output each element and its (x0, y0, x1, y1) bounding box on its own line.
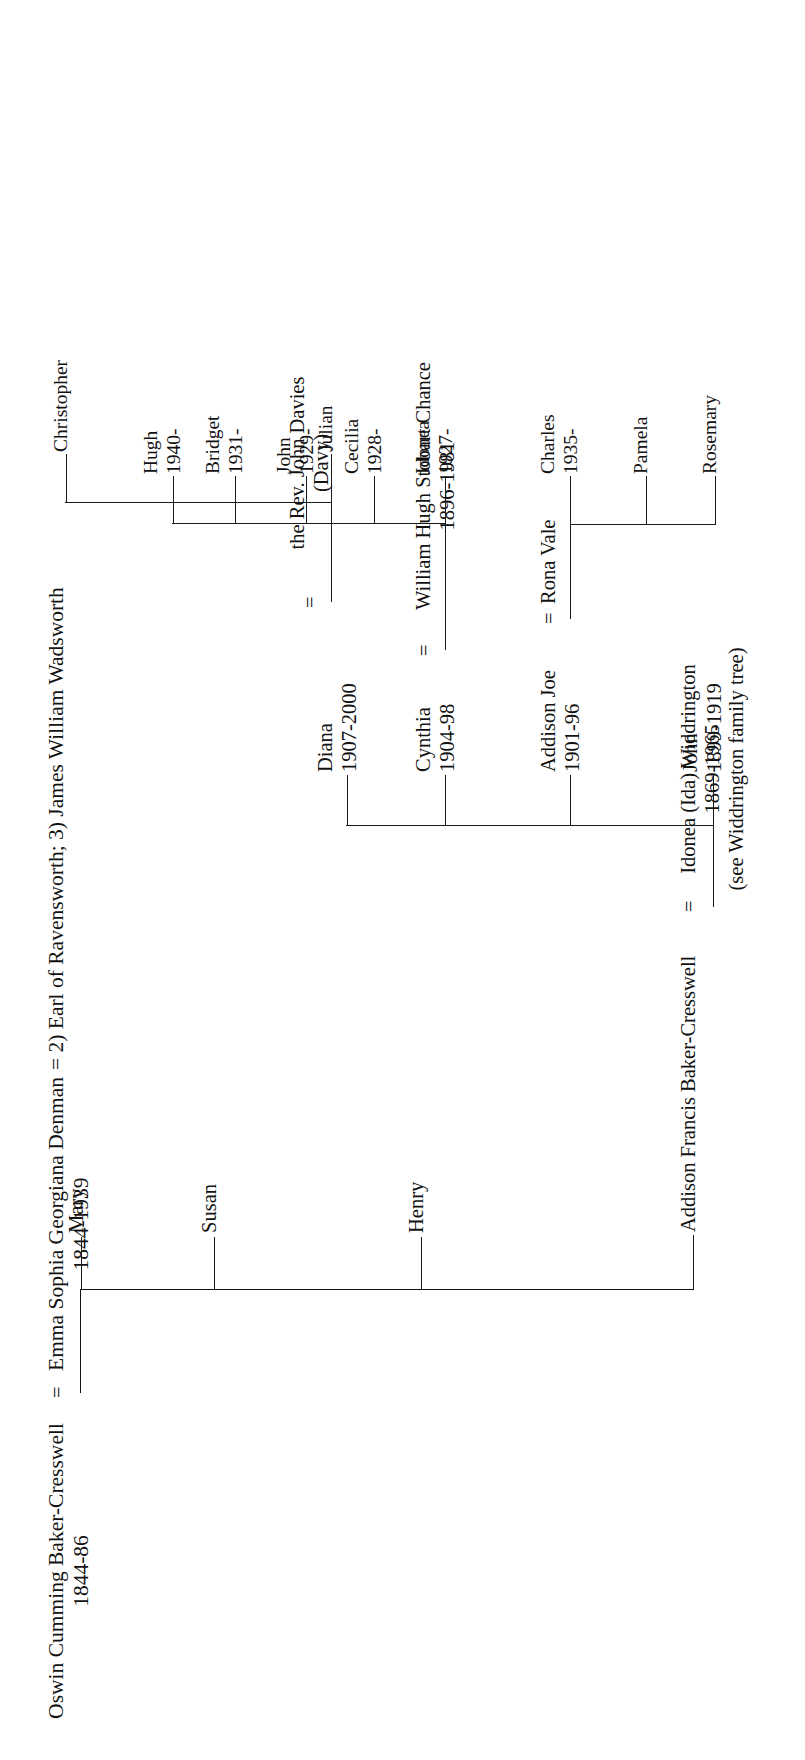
sibling-stub-rosemary (715, 476, 716, 524)
person-name: Hugh (139, 354, 162, 474)
person-henry: Henry (404, 1113, 428, 1233)
person-christopher: Christopher (49, 292, 72, 452)
person-dates: 1901-96 (560, 624, 584, 772)
person-diana: Diana 1907-2000 (313, 612, 361, 772)
person-name: Mary (64, 1113, 88, 1233)
family-tree-page: Oswin Cumming Baker-Cresswell 1844-86 = … (0, 0, 805, 1760)
sibling-stub-john-1929 (306, 476, 307, 524)
descent-line-addison-joe (570, 524, 571, 619)
remarriage-note-emma-denman: = 2) Earl of Ravensworth; 3) James Willi… (44, 550, 69, 1070)
marriage-equals-cynthia: = (414, 644, 435, 656)
sibling-stub-henry (421, 1237, 422, 1289)
sibling-spine-chance-children (172, 523, 446, 524)
sibling-spine-addison-joe-children (570, 524, 716, 525)
person-rona-vale: Rona Vale (536, 474, 560, 604)
person-name: John (678, 622, 702, 772)
person-dates: 1844-86 (69, 1406, 94, 1736)
chart-rotation-wrapper: Oswin Cumming Baker-Cresswell 1844-86 = … (0, 0, 805, 1760)
marriage-equals-g2: = (679, 900, 700, 912)
person-oswin-cumming-baker-cresswell: Oswin Cumming Baker-Cresswell 1844-86 (44, 1406, 95, 1736)
person-name: Addison Francis Baker-Cresswell (676, 914, 700, 1232)
person-dates: 1899-1919 (702, 622, 726, 772)
person-idonea-1927: Idonea 1927- (411, 354, 457, 474)
person-name: Addison Joe (536, 624, 560, 772)
person-name: Cynthia (411, 654, 435, 772)
sibling-stub-addison-francis (693, 1235, 694, 1289)
sibling-stub-pamela (646, 476, 647, 524)
sibling-stub-bridget (235, 476, 236, 524)
person-dates: 1907-2000 (337, 612, 361, 772)
person-addison-francis-baker-cresswell: Addison Francis Baker-Cresswell (676, 914, 700, 1232)
person-name: Henry (404, 1113, 428, 1233)
descent-line-g1 (80, 1289, 81, 1393)
person-pamela: Pamela (629, 354, 652, 474)
person-dates: 1928- (363, 354, 386, 474)
person-name: Susan (197, 1113, 221, 1233)
sibling-stub-idonea-1927 (445, 476, 446, 524)
person-name: Charles (536, 354, 559, 474)
person-name: Julian (314, 332, 337, 452)
person-john-1929: John 1929- (272, 354, 318, 474)
person-mary: Mary (64, 1113, 88, 1233)
person-name: Diana (313, 612, 337, 772)
sibling-stub-susan (214, 1237, 215, 1289)
person-hugh-1940: Hugh 1940- (139, 354, 185, 474)
descent-line-cynthia (445, 523, 446, 650)
person-john-1899-1919: John 1899-1919 (678, 622, 726, 772)
sibling-spine-g2 (80, 1289, 694, 1290)
person-name: Rosemary (698, 334, 721, 474)
sibling-stub-diana (347, 775, 348, 825)
sibling-stub-john-1899 (713, 775, 714, 825)
person-name: Bridget (201, 354, 224, 474)
sibling-stub-julian (331, 454, 332, 502)
person-note: (see Widdrington family tree) (724, 644, 748, 894)
sibling-stub-hugh (173, 476, 174, 524)
marriage-equals-addison-joe: = (539, 612, 560, 624)
person-name: Idonea (411, 354, 434, 474)
person-name: Oswin Cumming Baker-Cresswell (44, 1406, 69, 1736)
person-charles-1935: Charles 1935- (536, 354, 582, 474)
person-dates: 1935- (559, 354, 582, 474)
sibling-stub-addison-joe (570, 775, 571, 825)
person-name: Pamela (629, 354, 652, 474)
person-susan: Susan (197, 1113, 221, 1233)
person-dates: 1931- (224, 354, 247, 474)
person-cecilia-1928: Cecilia 1928- (340, 354, 386, 474)
person-addison-joe: Addison Joe 1901-96 (536, 624, 584, 772)
person-name: Cecilia (340, 354, 363, 474)
person-bridget-1931: Bridget 1931- (201, 354, 247, 474)
sibling-stub-cecilia (374, 476, 375, 524)
person-dates: 1904-98 (435, 654, 459, 772)
sibling-stub-charles (570, 476, 571, 524)
person-name: John (272, 354, 295, 474)
remarriage-text: = 2) Earl of Ravensworth; 3) James Willi… (44, 550, 69, 1070)
person-julian: Julian (314, 332, 337, 452)
marriage-equals-g1: = (47, 1386, 68, 1398)
sibling-stub-cynthia (445, 775, 446, 825)
sibling-stub-christopher (66, 454, 67, 502)
person-name: Christopher (49, 292, 72, 452)
person-cynthia: Cynthia 1904-98 (411, 654, 459, 772)
sibling-stub-mary (81, 1237, 82, 1289)
person-dates: 1927- (434, 354, 457, 474)
descent-line-diana (331, 502, 332, 602)
descent-line-g2 (713, 825, 714, 907)
person-name: Rona Vale (536, 474, 560, 604)
person-rosemary: Rosemary (698, 334, 721, 474)
family-tree-chart: Oswin Cumming Baker-Cresswell 1844-86 = … (0, 0, 805, 1760)
person-dates: 1940- (162, 354, 185, 474)
sibling-spine-g3 (346, 825, 714, 826)
sibling-spine-davies-children (65, 502, 332, 503)
marriage-equals-diana: = (300, 596, 321, 608)
